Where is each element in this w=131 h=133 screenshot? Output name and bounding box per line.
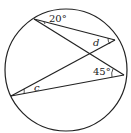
angle-label-c: c — [34, 82, 40, 93]
angle-label-right: 45° — [93, 66, 111, 77]
angle-arc-right — [112, 69, 113, 77]
angle-label-top: 20° — [49, 13, 67, 24]
chord-d-c — [11, 75, 124, 96]
angle-label-d: d — [93, 37, 99, 48]
circle-diagram: 20° d 45° c — [0, 0, 131, 133]
chord-a-b — [34, 19, 115, 40]
